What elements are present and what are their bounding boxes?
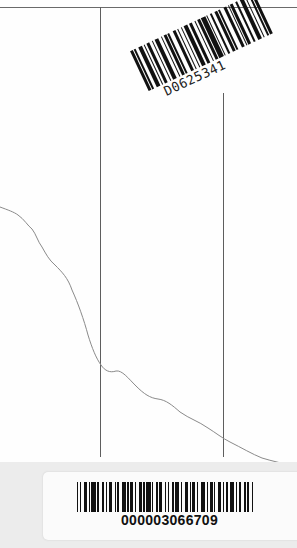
barcode-number-bottom: 000003066709 xyxy=(121,512,218,528)
barcode-gap xyxy=(253,482,254,512)
barcode-bars-bottom xyxy=(77,482,283,512)
scanned-page: D0625341 000003066709 xyxy=(0,0,297,548)
barcode-sticker: 000003066709 xyxy=(43,472,297,540)
